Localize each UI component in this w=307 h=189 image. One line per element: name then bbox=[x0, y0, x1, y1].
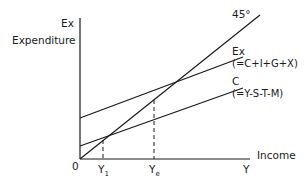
y-axis-long-label: Expenditure bbox=[12, 35, 76, 46]
line-c bbox=[80, 88, 243, 146]
line-c-formula: (=Y-S-T-M) bbox=[232, 89, 283, 99]
line-ex-formula: (=C+I+G+X) bbox=[232, 59, 298, 69]
line-c-label: C bbox=[232, 76, 239, 87]
x-marker-y1-subscript: 1 bbox=[104, 170, 108, 178]
line-45-degree bbox=[80, 15, 260, 159]
line-45-label: 45° bbox=[232, 9, 251, 20]
line-ex bbox=[80, 57, 243, 118]
x-marker-ye: Ye bbox=[149, 164, 160, 178]
x-axis-short-label: Y bbox=[243, 164, 249, 175]
y-axis-short-label: Ex bbox=[61, 18, 74, 29]
x-axis-long-label: Income bbox=[257, 150, 296, 161]
x-marker-y1: Y1 bbox=[98, 164, 109, 178]
origin-label: 0 bbox=[72, 161, 79, 172]
line-ex-label: Ex bbox=[232, 46, 245, 57]
x-marker-ye-subscript: e bbox=[155, 170, 159, 178]
